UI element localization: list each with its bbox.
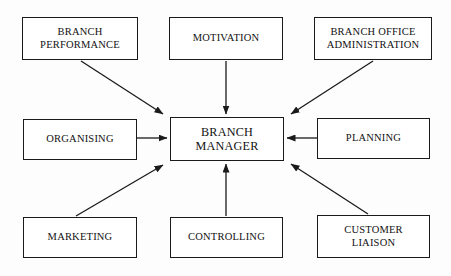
node-customer-liaison[interactable]: CUSTOMER LIAISON	[317, 215, 430, 258]
node-organising-label: ORGANISING	[43, 133, 116, 145]
node-controlling[interactable]: CONTROLLING	[170, 217, 283, 258]
node-branch-performance[interactable]: BRANCH PERFORMANCE	[22, 17, 138, 60]
branch-manager-diagram: BRANCH PERFORMANCE MOTIVATION BRANCH OFF…	[0, 0, 451, 276]
node-marketing[interactable]: MARKETING	[23, 217, 137, 258]
node-branch-office-administration-label: BRANCH OFFICE ADMINISTRATION	[324, 26, 423, 51]
node-branch-office-administration[interactable]: BRANCH OFFICE ADMINISTRATION	[314, 17, 432, 60]
node-branch-performance-label: BRANCH PERFORMANCE	[37, 26, 123, 51]
node-branch-manager[interactable]: BRANCH MANAGER	[170, 117, 284, 161]
connector-marketing-to-branch-manager	[76, 165, 163, 216]
node-planning[interactable]: PLANNING	[317, 118, 430, 159]
connector-customer-liaison-to-branch-manager	[291, 164, 368, 214]
node-planning-label: PLANNING	[343, 132, 404, 144]
node-motivation-label: MOTIVATION	[190, 32, 263, 44]
node-organising[interactable]: ORGANISING	[23, 119, 137, 160]
node-motivation[interactable]: MOTIVATION	[169, 17, 283, 60]
node-controlling-label: CONTROLLING	[185, 231, 268, 243]
node-customer-liaison-label: CUSTOMER LIAISON	[341, 224, 406, 249]
node-marketing-label: MARKETING	[45, 231, 116, 243]
connector-branch-office-administration-to-branch-manager	[291, 61, 373, 114]
connector-branch-performance-to-branch-manager	[81, 61, 163, 114]
node-branch-manager-label: BRANCH MANAGER	[192, 125, 261, 154]
